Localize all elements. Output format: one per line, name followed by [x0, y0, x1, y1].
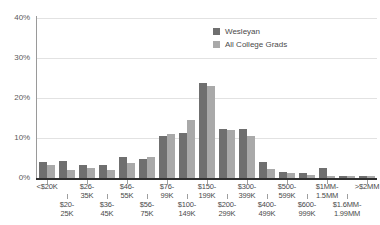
x-axis-label-line1: $46-	[120, 182, 134, 191]
bar-group	[77, 18, 97, 178]
income-distribution-chart: 0%10%20%30%40% WesleyanAll College Grads…	[0, 0, 380, 225]
bar	[99, 165, 107, 178]
bar	[39, 162, 47, 178]
bar	[119, 157, 127, 178]
bar	[139, 159, 147, 178]
bar	[187, 120, 195, 178]
bar	[67, 170, 75, 178]
bar	[127, 163, 135, 178]
bar-group	[57, 18, 77, 178]
x-axis-label-line1: $1.6MM-	[333, 200, 362, 209]
y-axis-tick-label: 0%	[19, 174, 30, 182]
x-axis-label-line1: <$20K	[36, 182, 57, 191]
chart-legend: WesleyanAll College Grads	[213, 26, 287, 49]
bar-group	[37, 18, 57, 178]
bar-groups	[37, 18, 377, 178]
x-axis-label-line2: 1.5MM	[301, 192, 353, 201]
x-axis-label-line1: $26-	[80, 182, 94, 191]
bar	[227, 130, 235, 178]
x-axis-label-line1: $100-	[178, 200, 196, 209]
x-axis-label-line1: $36-	[100, 200, 114, 209]
bar	[47, 165, 55, 178]
bar-group	[117, 18, 137, 178]
legend-item: All College Grads	[213, 39, 287, 49]
bar	[247, 136, 255, 178]
bar	[87, 168, 95, 178]
bar-group	[177, 18, 197, 178]
x-axis-label-line1: $56-	[140, 200, 154, 209]
bar-group	[157, 18, 177, 178]
x-axis-label-line1: $300-	[238, 182, 256, 191]
y-axis-tick-label: 30%	[14, 54, 30, 62]
bar-group	[337, 18, 357, 178]
bar	[207, 86, 215, 178]
x-axis-category-label: >$2MM	[341, 183, 380, 192]
x-axis-label-line1: $20-	[60, 200, 74, 209]
y-axis-tick-label: 40%	[14, 14, 30, 22]
legend-swatch-icon	[213, 28, 220, 35]
x-axis-label-line1: $400-	[258, 200, 276, 209]
bar	[107, 170, 115, 178]
y-axis-tick-label: 10%	[14, 134, 30, 142]
plot-area	[37, 18, 377, 178]
bar	[159, 136, 167, 178]
x-axis-label-line1: >$2MM	[355, 182, 379, 191]
bar-group	[317, 18, 337, 178]
bar	[267, 169, 275, 178]
x-axis-label-line1: $500-	[278, 182, 296, 191]
bar	[219, 129, 227, 178]
x-axis-label-line1: $150-	[198, 182, 216, 191]
x-axis-label-line1: $76-	[160, 182, 174, 191]
bar	[79, 165, 87, 178]
legend-label: Wesleyan	[225, 27, 260, 36]
x-axis-label-line1: $600-	[298, 200, 316, 209]
x-axis-labels: <$20K$20-25K$26-35K$36-45K$46-55K$56-75K…	[37, 180, 377, 225]
x-axis-label-line1: $200-	[218, 200, 236, 209]
bar	[167, 134, 175, 178]
bar	[239, 129, 247, 178]
bar-group	[357, 18, 377, 178]
bar	[199, 83, 207, 178]
bar-group	[97, 18, 117, 178]
legend-label: All College Grads	[225, 40, 287, 49]
bar	[179, 133, 187, 178]
bar-group	[297, 18, 317, 178]
bar	[259, 162, 267, 178]
x-axis-category-label: $1.6MM-1.99MM	[321, 201, 373, 218]
bar	[59, 161, 67, 178]
y-axis-tick-label: 20%	[14, 94, 30, 102]
bar-group	[137, 18, 157, 178]
x-axis-label-line1: $1MM-	[316, 182, 339, 191]
bar	[319, 168, 327, 178]
legend-item: Wesleyan	[213, 26, 287, 36]
x-axis-label-line2: 1.99MM	[321, 210, 373, 219]
bar	[147, 157, 155, 178]
legend-swatch-icon	[213, 41, 220, 48]
